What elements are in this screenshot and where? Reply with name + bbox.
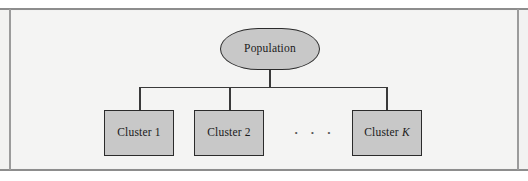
connector-root-stem xyxy=(269,70,271,88)
node-cluster-2: Cluster 2 xyxy=(194,110,264,156)
figure-cluster-sampling-diagram: Population Cluster 1 Cluster 2 Cluster K… xyxy=(0,0,528,181)
connector-drop-cluster-k xyxy=(386,87,388,111)
connector-drop-cluster-1 xyxy=(139,87,141,111)
ellipsis-dot-2: · xyxy=(310,125,317,141)
node-cluster-k-label: Cluster K xyxy=(364,127,410,139)
node-cluster-1-label: Cluster 1 xyxy=(117,127,161,139)
frame-rule-bottom xyxy=(0,169,528,171)
node-cluster-k-label-suffix: K xyxy=(402,126,410,138)
frame-rule-left xyxy=(9,9,11,170)
node-cluster-k-label-prefix: Cluster xyxy=(364,126,402,138)
ellipsis-dot-1: · xyxy=(294,125,301,141)
node-cluster-1: Cluster 1 xyxy=(104,110,174,156)
frame-rule-top xyxy=(0,8,528,10)
frame-rule-right xyxy=(517,9,519,170)
ellipsis-dot-3: · xyxy=(327,125,334,141)
node-cluster-k: Cluster K xyxy=(352,110,422,156)
node-population: Population xyxy=(220,28,320,70)
ellipsis-between-clusters: · · · xyxy=(294,125,334,141)
connector-horizontal-bus xyxy=(139,87,387,89)
node-population-label: Population xyxy=(244,43,296,55)
connector-drop-cluster-2 xyxy=(229,87,231,111)
node-cluster-2-label: Cluster 2 xyxy=(207,127,251,139)
